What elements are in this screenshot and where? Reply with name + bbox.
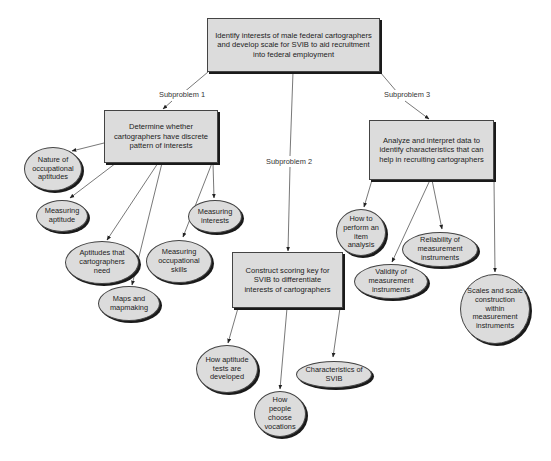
subproblem-1-box: Determine whether cartographers have dis… — [104, 110, 218, 163]
topic-maps-and-mapmaking: Maps and mapmaking — [98, 286, 160, 321]
topic-how-aptitude-tests-developed: How aptitude tests are developed — [196, 345, 258, 393]
topic-measuring-interests: Measuring interests — [188, 200, 242, 233]
subproblem-3-label: Subproblem 3 — [383, 90, 431, 99]
subproblem-3-box: Analyze and interpret data to identify c… — [369, 120, 494, 180]
edge-b2-aptitude-tests — [228, 308, 238, 343]
topic-validity-of-measurement-instruments: Validity of measurement instruments — [354, 264, 428, 299]
topic-measuring-occupational-skills: Measuring occupational skills — [146, 240, 212, 283]
edge-b1-aptitudes-need — [107, 163, 158, 240]
topic-characteristics-of-svib: Characteristics of SVIB — [296, 361, 372, 388]
edge-root-sub2-b — [288, 167, 290, 251]
edge-b2-svib — [333, 308, 340, 357]
topic-scales-and-scale-construction: Scales and scale construction within mea… — [460, 274, 530, 344]
edge-b3-item-analysis — [364, 180, 372, 207]
edge-root-sub3 — [380, 72, 397, 92]
topic-reliability-of-measurement-instruments: Reliability of measurement instruments — [402, 232, 478, 267]
edge-root-sub2 — [290, 72, 293, 156]
subproblem-1-label: Subproblem 1 — [158, 90, 206, 99]
edge-b3-scales — [494, 180, 495, 272]
topic-how-to-perform-item-analysis: How to perform an item analysis — [336, 209, 386, 256]
edge-b3-reliability — [432, 180, 442, 229]
subproblem-2-box: Construct scoring key for SVIB to differ… — [232, 252, 343, 308]
topic-nature-of-occupational-aptitudes: Nature of occupational aptitudes — [24, 147, 82, 191]
concept-map: Identify interests of male federal carto… — [0, 0, 551, 461]
edge-root-sub1-b — [163, 101, 172, 109]
edge-b2-vocations — [280, 308, 287, 389]
subproblem-2-label: Subproblem 2 — [265, 157, 313, 166]
root-problem-box: Identify interests of male federal carto… — [207, 18, 380, 72]
topic-measuring-aptitude: Measuring aptitude — [36, 200, 88, 232]
edge-b1-interests — [213, 163, 214, 198]
edge-b1-nature — [72, 143, 104, 151]
edge-root-sub3-b — [405, 101, 429, 119]
topic-aptitudes-cartographers-need: Aptitudes that cartographers need — [65, 241, 139, 284]
topic-how-people-choose-vocations: How people choose vocations — [254, 391, 306, 437]
